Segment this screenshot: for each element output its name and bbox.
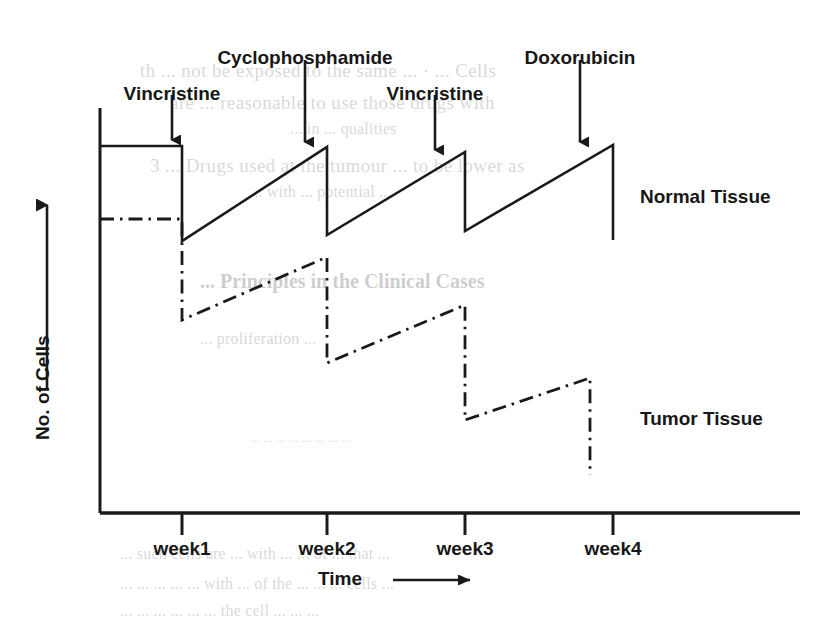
x-axis-title: Time bbox=[318, 568, 362, 590]
x-tick-label-week3: week3 bbox=[425, 538, 505, 560]
x-tick-label-week2: week2 bbox=[287, 538, 367, 560]
series-label-normal-tissue: Normal Tissue bbox=[640, 186, 771, 208]
series-line-tumor-tissue bbox=[100, 219, 590, 475]
x-axis-ticks bbox=[182, 513, 613, 535]
drug-dose-arrows bbox=[172, 60, 580, 150]
x-tick-label-week4: week4 bbox=[573, 538, 653, 560]
series-label-tumor-tissue: Tumor Tissue bbox=[640, 408, 763, 430]
drug-label-3: Vincristine bbox=[325, 83, 545, 105]
drug-label-4: Doxorubicin bbox=[470, 47, 690, 69]
drug-label-1: Vincristine bbox=[62, 83, 282, 105]
series-line-normal-tissue bbox=[100, 145, 613, 241]
figure-container: th ... not be exposed to the same ... · … bbox=[0, 0, 834, 620]
y-axis-title: No. of Cells bbox=[32, 335, 54, 440]
x-tick-label-week1: week1 bbox=[142, 538, 222, 560]
drug-label-2: Cyclophosphamide bbox=[195, 47, 415, 69]
